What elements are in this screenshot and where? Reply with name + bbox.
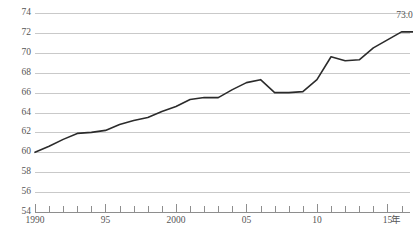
- x-axis-tick: [232, 206, 233, 212]
- y-axis-tick-label: 72: [5, 28, 31, 38]
- y-axis-tick-label: 68: [5, 68, 31, 78]
- y-axis-tick-label: 70: [5, 48, 31, 58]
- x-axis-tick: [77, 206, 78, 212]
- x-axis-line: [35, 212, 410, 213]
- x-axis-tick: [218, 206, 219, 212]
- data-series-line: [35, 13, 410, 212]
- x-axis-tick: [49, 206, 50, 212]
- x-axis-tick-label: 95: [101, 215, 111, 225]
- y-axis-tick-label: 64: [5, 108, 31, 118]
- endpoint-value-label: 73.0: [396, 10, 413, 20]
- x-axis-tick: [120, 206, 121, 212]
- y-axis-tick-label: 56: [5, 187, 31, 197]
- y-axis-tick-label: 66: [5, 88, 31, 98]
- y-axis-tick-label: 62: [5, 127, 31, 137]
- x-axis-tick: [261, 206, 262, 212]
- x-axis-tick: [246, 204, 247, 212]
- x-axis-tick: [331, 206, 332, 212]
- x-axis-tick: [317, 204, 318, 212]
- x-axis-tick: [91, 206, 92, 212]
- y-axis-tick-label: 60: [5, 147, 31, 157]
- x-axis-tick-label: 2000: [166, 215, 185, 225]
- x-axis-tick: [373, 206, 374, 212]
- x-axis-tick: [105, 204, 106, 212]
- x-axis-tick: [345, 206, 346, 212]
- x-axis-tick: [289, 206, 290, 212]
- x-axis-tick: [148, 206, 149, 212]
- x-axis-tick: [204, 206, 205, 212]
- x-axis-unit-label: 年: [391, 215, 401, 225]
- x-axis-tick: [275, 206, 276, 212]
- x-axis-tick: [402, 206, 403, 212]
- x-axis-tick: [35, 204, 36, 212]
- y-axis-tick-label: 58: [5, 167, 31, 177]
- y-axis-tick-label: 74: [5, 8, 31, 18]
- x-axis-tick: [303, 206, 304, 212]
- x-axis-tick: [190, 206, 191, 212]
- x-axis-tick-label: 1990: [26, 215, 45, 225]
- x-axis-tick-label: 10: [312, 215, 322, 225]
- chart-title: [0, 0, 413, 5]
- y-axis-labels: 7472706866646260585654: [0, 0, 31, 225]
- x-axis-tick: [134, 206, 135, 212]
- x-axis-tick: [63, 206, 64, 212]
- x-axis-tick: [359, 206, 360, 212]
- x-axis-tick-label: 05: [242, 215, 252, 225]
- line-chart: 7472706866646260585654 1990952000051015 …: [0, 0, 413, 235]
- x-axis-tick: [176, 204, 177, 212]
- x-axis-tick: [387, 204, 388, 212]
- x-axis-tick: [162, 206, 163, 212]
- plot-area: [35, 13, 410, 212]
